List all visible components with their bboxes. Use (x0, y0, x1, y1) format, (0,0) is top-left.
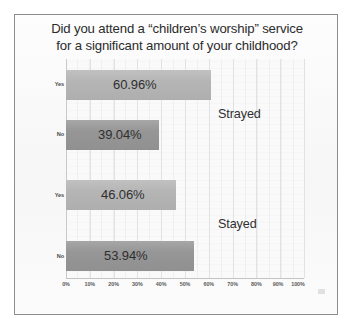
y-axis-labels: Yes No Yes No (31, 59, 64, 278)
y-axis-label-stayed-no: No (38, 253, 64, 259)
x-axis-line (66, 278, 304, 279)
gridline-80 (256, 59, 257, 278)
gridline-90 (280, 59, 281, 278)
x-tick-10: 10% (84, 281, 95, 287)
y-axis-label-strayed-yes: Yes (38, 81, 64, 87)
x-tick-60: 60% (203, 281, 214, 287)
bar-label-strayed-yes: 60.96% (113, 77, 157, 92)
bar-label-stayed-no: 53.94% (104, 248, 148, 263)
x-tick-0: 0% (62, 281, 70, 287)
chart-title: Did you attend a “children’s worship” se… (23, 21, 331, 54)
gridline-100 (304, 59, 305, 278)
bar-label-strayed-no: 39.04% (98, 127, 142, 142)
plot-area: 60.96% 39.04% 46.06% 53.94% Strayed Stay… (66, 59, 304, 278)
x-tick-100: 100% (291, 281, 305, 287)
x-tick-20: 20% (108, 281, 119, 287)
x-tick-90: 90% (273, 281, 284, 287)
y-axis-label-strayed-no: No (38, 131, 64, 137)
group-label-strayed: Strayed (218, 107, 261, 121)
x-tick-80: 80% (251, 281, 262, 287)
x-tick-50: 50% (180, 281, 191, 287)
x-tick-30: 30% (132, 281, 143, 287)
gridline-70 (233, 59, 234, 278)
group-label-stayed: Stayed (218, 217, 257, 231)
y-axis-label-stayed-yes: Yes (38, 192, 64, 198)
x-tick-70: 70% (227, 281, 238, 287)
bar-label-stayed-yes: 46.06% (101, 187, 145, 202)
figure-frame: Did you attend a “children’s worship” se… (14, 14, 338, 315)
x-axis-tick-labels: 0% 10% 20% 30% 40% 50% 60% 70% 80% 90% 1… (66, 281, 304, 293)
scan-artifact (318, 289, 325, 294)
x-tick-40: 40% (156, 281, 167, 287)
